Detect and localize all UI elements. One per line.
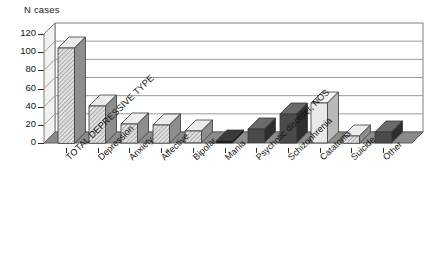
x-axis-tick-label: Anxiety [127,134,155,162]
x-axis-tick-label: Other [381,139,404,162]
bar-chart: N cases 020406080100120 [0,0,426,261]
x-axis-tick-label: Mania [223,138,248,162]
x-axis-tick-label: Affective [159,131,191,162]
x-axis-tick-label: Catatonia [318,128,353,162]
x-axis-tick-label: Bipolar [191,136,218,163]
x-axis-tick-label: Suicide [349,134,377,162]
x-axis: TOTAL DEPRESSIVE TYPEDepressionAnxietyAf… [0,0,426,261]
